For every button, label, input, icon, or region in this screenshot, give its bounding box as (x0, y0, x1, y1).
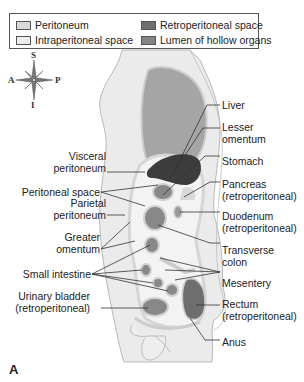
label-anus: Anus (222, 336, 246, 348)
label-duodenum: Duodenum (retroperitoneal) (222, 210, 297, 234)
urinary-bladder (142, 298, 168, 316)
label-rectum: Rectum (retroperitoneal) (222, 298, 297, 322)
label-transverse-colon: Transverse colon (222, 244, 274, 268)
label-pancreas: Pancreas (retroperitoneal) (222, 178, 297, 202)
label-visceral-peritoneum: Visceral peritoneum (53, 150, 106, 174)
label-stomach: Stomach (222, 155, 263, 167)
small-intestine-loop (166, 284, 178, 296)
rectum (182, 279, 205, 320)
label-greater-omentum: Greater omentum (56, 231, 100, 255)
small-intestine-loop (145, 237, 159, 253)
label-parietal-peritoneum: Parietal peritoneum (53, 197, 106, 221)
stomach (153, 184, 173, 200)
label-liver: Liver (222, 99, 245, 111)
small-intestine-loop (141, 264, 151, 276)
label-mesentery: Mesentery (222, 277, 271, 289)
panel-letter: A (9, 362, 18, 377)
small-intestine-loop (153, 278, 163, 288)
label-urinary-bladder: Urinary bladder (retroperitoneal) (15, 290, 90, 314)
label-lesser-omentum: Lesser omentum (222, 121, 266, 145)
label-small-intestine: Small intestine (23, 268, 91, 280)
